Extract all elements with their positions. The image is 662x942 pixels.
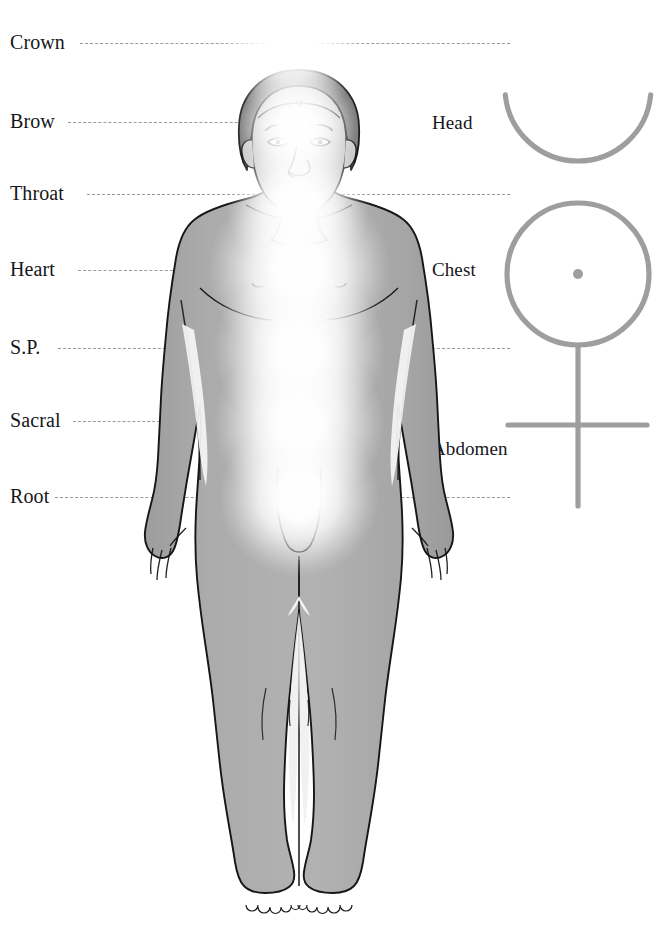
- chakra-glow: [219, 417, 379, 577]
- chakra-glow-layer: [0, 0, 662, 942]
- chakra-diagram: CrownBrowThroatHeartS.P.SacralRootHeadCh…: [0, 0, 662, 942]
